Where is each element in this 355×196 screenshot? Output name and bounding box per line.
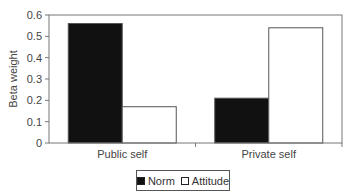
bar-norm — [215, 98, 269, 143]
x-tick-label: Public self — [97, 148, 148, 160]
norm-swatch-icon — [137, 177, 145, 185]
attitude-swatch-icon — [181, 177, 189, 185]
y-tick-label: 0.2 — [27, 94, 42, 106]
bar-attitude — [122, 107, 176, 143]
bar-chart: 00.10.20.30.40.50.6 Public selfPrivate s… — [0, 0, 355, 196]
y-tick-label: 0.5 — [27, 30, 42, 42]
y-tick-label: 0.1 — [27, 116, 42, 128]
x-tick-label: Private self — [242, 148, 297, 160]
legend-label-norm: Norm — [148, 175, 175, 187]
bars — [68, 24, 323, 143]
y-tick-label: 0 — [36, 137, 42, 149]
y-tick-label: 0.6 — [27, 9, 42, 21]
y-tick-label: 0.3 — [27, 73, 42, 85]
y-tick-label: 0.4 — [27, 52, 42, 64]
x-axis-labels: Public selfPrivate self — [97, 143, 342, 160]
legend: Norm Attitude — [136, 170, 230, 191]
y-axis-label: Beta weight — [7, 50, 19, 107]
y-axis-ticks: 00.10.20.30.40.50.6 — [27, 9, 49, 149]
legend-label-attitude: Attitude — [192, 175, 229, 187]
legend-item-attitude: Attitude — [181, 175, 229, 187]
bar-norm — [68, 24, 122, 143]
bar-attitude — [269, 28, 323, 143]
legend-item-norm: Norm — [137, 175, 175, 187]
